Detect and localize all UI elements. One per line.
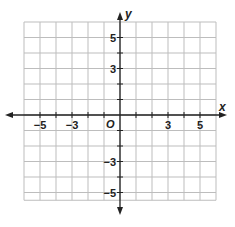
x-tick-label: −5 [34,119,47,131]
x-tick-label: 3 [165,119,171,131]
y-axis-up-arrow-icon [117,12,123,20]
coordinate-grid-svg: −5−33553−3−5 x y O [0,0,235,227]
x-tick-label: −3 [66,119,79,131]
y-tick-label: 5 [110,32,116,44]
y-tick-label: 3 [110,63,116,75]
x-tick-label: 5 [197,119,203,131]
y-axis-label: y [124,7,133,21]
y-tick-label: −5 [103,187,116,199]
y-axis-down-arrow-icon [117,207,123,215]
axes [5,12,227,215]
x-axis-label: x [218,100,227,114]
x-axis-left-arrow-icon [5,112,13,118]
coordinate-plane: −5−33553−3−5 x y O [0,0,235,227]
y-tick-label: −3 [103,156,116,168]
origin-label: O [106,118,115,130]
